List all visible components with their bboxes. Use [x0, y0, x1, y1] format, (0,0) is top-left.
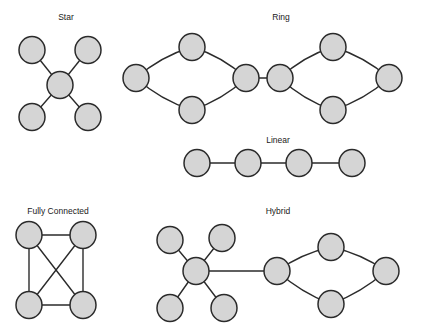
star-node-top-left: [19, 37, 45, 64]
topology-label-star: Star: [58, 12, 74, 22]
star-node-bottom-left: [19, 104, 45, 131]
ring-left-node-south: [179, 97, 205, 124]
ring-right-node-south: [320, 97, 346, 124]
hybrid-ring-node-south: [318, 291, 344, 318]
topology-label-ring: Ring: [272, 12, 290, 22]
linear-node-2: [235, 150, 261, 177]
fully-connected-node-top-right: [70, 222, 96, 249]
linear-node-4: [339, 150, 365, 177]
topology-label-fully-connected: Fully Connected: [27, 206, 89, 216]
hybrid-ring-node-north: [318, 234, 344, 261]
ring-left-node-west: [123, 65, 149, 92]
hybrid-star-node-bottom-left: [157, 295, 183, 322]
topology-label-linear: Linear: [266, 135, 290, 145]
topology-label-hybrid: Hybrid: [266, 206, 291, 216]
linear-node-3: [286, 150, 312, 177]
labels-layer: StarRingLinearFully ConnectedHybrid: [27, 12, 290, 216]
hybrid-star-node-top-right: [209, 225, 235, 252]
ring-right-node-west: [267, 65, 293, 92]
fully-connected-node-top-left: [16, 222, 42, 249]
linear-node-1: [184, 150, 210, 177]
topology-diagram-root: StarRingLinearFully ConnectedHybrid: [0, 0, 424, 334]
hybrid-star-node-hub: [183, 258, 209, 285]
hybrid-star-node-bottom-right: [211, 295, 237, 322]
ring-left-node-north: [179, 34, 205, 61]
network-topology-illustration: StarRingLinearFully ConnectedHybrid: [0, 0, 424, 334]
ring-right-node-east: [376, 65, 402, 92]
ring-left-node-east: [233, 65, 259, 92]
nodes-layer: [16, 34, 402, 322]
star-node-bottom-right: [75, 104, 101, 131]
ring-right-node-north: [320, 34, 346, 61]
fully-connected-node-bottom-right: [70, 292, 96, 319]
hybrid-ring-node-west: [264, 258, 290, 285]
fully-connected-node-bottom-left: [16, 292, 42, 319]
hybrid-ring-node-east: [373, 258, 399, 285]
star-node-top-right: [75, 37, 101, 64]
star-node-hub: [47, 72, 73, 99]
hybrid-star-node-top-left: [157, 227, 183, 254]
